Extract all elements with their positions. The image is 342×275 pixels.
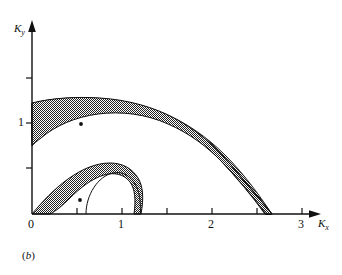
x-tick-label-1: 1 <box>118 217 124 232</box>
upper-region-marker <box>79 122 83 126</box>
x-axis-label: Kx <box>318 217 329 232</box>
figure-panel-b: Ky Kx 0 1 2 3 1 (b) <box>0 0 342 275</box>
panel-caption: (b) <box>22 249 35 261</box>
y-axis-label-sub: y <box>21 28 25 37</box>
x-tick-label-0: 0 <box>28 217 34 232</box>
y-axis-ticks <box>26 78 32 168</box>
lower-region-marker <box>78 198 82 202</box>
panel-caption-suffix: ) <box>31 249 35 261</box>
y-tick-label-1: 1 <box>18 115 24 130</box>
y-axis-label: Ky <box>14 22 25 37</box>
x-tick-label-2: 2 <box>208 217 214 232</box>
lower-shaded-crescent <box>32 163 143 214</box>
outer-circle-arc <box>231 165 272 214</box>
y-axis-arrowhead <box>28 20 36 32</box>
x-axis-label-sub: x <box>325 223 329 232</box>
x-tick-label-3: 3 <box>298 217 304 232</box>
plot-canvas <box>0 0 342 275</box>
